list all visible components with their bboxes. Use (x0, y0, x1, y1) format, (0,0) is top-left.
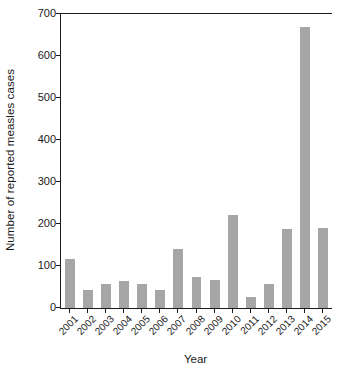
measles-cases-bar-chart: Number of reported measles cases 0100200… (0, 0, 348, 376)
y-tick-mark (56, 223, 60, 224)
bar-2005 (137, 284, 147, 308)
x-tick-mark (232, 308, 233, 313)
y-tick-label: 200 (22, 218, 56, 229)
bar-2013 (282, 229, 292, 308)
bar-2004 (119, 281, 129, 308)
bar-2012 (264, 284, 274, 308)
bar-2009 (210, 280, 220, 308)
bar-2001 (65, 259, 75, 308)
y-tick-label: 600 (22, 50, 56, 61)
y-tick-mark (56, 13, 60, 14)
y-tick-label: 0 (22, 302, 56, 313)
y-axis-title: Number of reported measles cases (0, 10, 20, 310)
bar-2008 (192, 277, 202, 308)
x-tick-mark (123, 308, 124, 313)
x-axis-tick-labels: 2001200220032004200520062007200820092010… (60, 314, 331, 350)
y-tick-label: 400 (22, 134, 56, 145)
y-tick-mark (56, 97, 60, 98)
bar-2015 (318, 228, 328, 308)
x-tick-mark (286, 308, 287, 313)
x-tick-mark (322, 308, 323, 313)
y-tick-label: 100 (22, 260, 56, 271)
bar-2006 (155, 290, 165, 308)
x-tick-mark (105, 308, 106, 313)
x-tick-mark (196, 308, 197, 313)
x-axis-title: Year (60, 352, 331, 366)
y-tick-mark (56, 139, 60, 140)
bar-2007 (173, 249, 183, 308)
x-tick-mark (159, 308, 160, 313)
y-tick-mark (56, 265, 60, 266)
x-tick-mark (268, 308, 269, 313)
bar-2010 (228, 215, 238, 308)
x-tick-mark (214, 308, 215, 313)
y-tick-mark (56, 181, 60, 182)
y-tick-mark (56, 307, 60, 308)
y-tick-label: 300 (22, 176, 56, 187)
y-tick-label: 700 (22, 8, 56, 19)
bar-2003 (101, 284, 111, 308)
x-tick-mark (69, 308, 70, 313)
x-tick-mark (250, 308, 251, 313)
x-tick-mark (141, 308, 142, 313)
plot-area (60, 13, 332, 309)
y-axis-tick-labels: 0100200300400500600700 (22, 0, 56, 376)
bar-2011 (246, 297, 256, 308)
y-tick-label: 500 (22, 92, 56, 103)
x-tick-mark (177, 308, 178, 313)
x-tick-mark (304, 308, 305, 313)
bar-2014 (300, 27, 310, 308)
bar-series (61, 14, 332, 308)
y-tick-mark (56, 55, 60, 56)
bar-2002 (83, 290, 93, 308)
x-tick-mark (87, 308, 88, 313)
